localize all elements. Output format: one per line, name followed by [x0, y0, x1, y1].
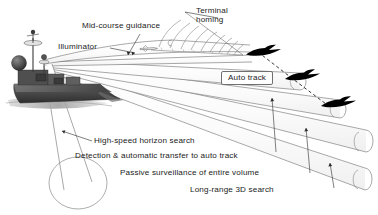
radar-engagement-diagram: Mid-course guidance Terminal homing Illu…: [0, 0, 378, 215]
aircraft-target-1: [246, 45, 281, 56]
radar-dome: [12, 56, 27, 71]
label-long-range-3d-search: Long-range 3D search: [190, 185, 274, 195]
label-passive-surveillance: Passive surveillance of entire volume: [120, 168, 259, 178]
label-terminal-homing: Terminal homing: [196, 6, 228, 25]
mast-antenna: [24, 30, 42, 72]
label-mid-course-guidance: Mid-course guidance: [82, 21, 160, 31]
label-high-speed-horizon-search: High-speed horizon search: [94, 136, 195, 146]
label-detection-auto-transfer: Detection & automatic transfer to auto t…: [75, 151, 238, 161]
label-illuminator: Illuminator: [58, 42, 97, 52]
beam-geometry-layer: [0, 0, 378, 215]
label-auto-track: Auto track: [221, 71, 273, 85]
